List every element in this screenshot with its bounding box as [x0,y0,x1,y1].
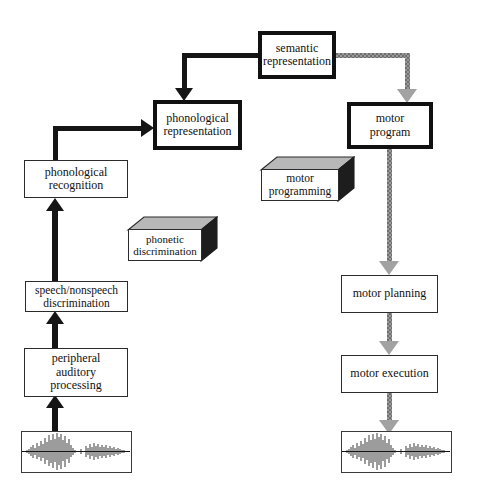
waveform-input-graphic [22,432,130,471]
connector-planning-to-execution-shaft [387,313,392,342]
connector-input-to-peripheral-shaft [52,404,58,432]
connector-semantic-to-phonological-vertical [182,53,187,88]
connector-semantic-to-motor-program-arrowhead [397,89,417,103]
diagram-canvas: semantic representation phonological rep… [0,0,477,501]
box-motor-planning-label: motor planning [351,287,429,300]
box-semantic-representation[interactable]: semantic representation [258,31,336,79]
box-phonological-recognition[interactable]: phonological recognition [24,160,128,198]
connector-execution-to-output-shaft [387,393,392,421]
box-motor-planning[interactable]: motor planning [341,275,438,313]
connector-semantic-to-motor-program-horizontal [334,53,410,58]
box-phonological-representation-label: phonological representation [162,112,234,139]
box-phonological-recognition-label: phonological recognition [43,166,110,193]
box-speech-nonspeech-discrimination-label: speech/nonspeech discrimination [33,284,120,310]
waveform-output-graphic [342,432,450,471]
connector-peripheral-to-speech-arrowhead [46,311,64,324]
connector-motor-program-to-planning-arrowhead [379,261,399,275]
box-peripheral-auditory-processing[interactable]: peripheral auditory processing [24,348,128,397]
connector-motor-program-to-planning-shaft [387,148,392,262]
connector-recognition-to-representation-horizontal [53,126,141,131]
connector-semantic-to-phonological-horizontal [182,53,260,58]
box-motor-execution-label: motor execution [348,367,430,380]
connector-peripheral-to-speech-shaft [52,320,58,348]
note-motor-programming-front-face: motor programming [261,169,339,201]
box-motor-execution[interactable]: motor execution [341,355,438,393]
note-phonetic-discrimination-label: phonetic discrimination [131,233,199,258]
connector-recognition-to-representation-vertical [53,126,58,162]
box-phonological-representation[interactable]: phonological representation [153,100,242,150]
box-peripheral-auditory-processing-label: peripheral auditory processing [48,352,103,392]
waveform-output [341,431,452,473]
box-motor-program[interactable]: motor program [347,102,433,149]
waveform-input [21,431,132,473]
note-phonetic-discrimination[interactable]: phonetic discrimination [126,216,218,266]
connector-semantic-to-motor-program-vertical [405,53,410,90]
connector-speech-to-recognition-shaft [52,208,58,281]
connector-planning-to-execution-arrowhead [379,341,399,355]
connector-speech-to-recognition-arrowhead [46,198,64,211]
note-phonetic-discrimination-front-face: phonetic discrimination [128,229,202,261]
box-semantic-representation-label: semantic representation [261,42,333,69]
box-speech-nonspeech-discrimination[interactable]: speech/nonspeech discrimination [25,281,128,312]
note-motor-programming-label: motor programming [267,172,334,198]
box-motor-program-label: motor program [368,112,413,139]
note-motor-programming[interactable]: motor programming [259,156,355,206]
